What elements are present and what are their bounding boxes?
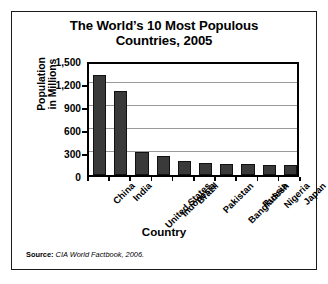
bar-indonesia <box>157 156 170 175</box>
x-axis-title: Country <box>12 225 316 238</box>
x-axis-tick-label-pakistan: Pakistan <box>220 180 255 215</box>
plot-area <box>87 62 299 177</box>
bar-china <box>93 75 106 175</box>
bar-russia <box>241 164 254 175</box>
bar-nigeria <box>263 165 276 175</box>
y-axis-tick-labels: 03006009001,2001,500 <box>26 62 84 177</box>
y-axis-tick-label: 300 <box>64 149 81 160</box>
source-label: Source: <box>26 250 54 259</box>
y-axis-tick-label: 600 <box>64 126 81 137</box>
bar-bangladesh <box>220 164 233 175</box>
x-axis-tick-label-india: India <box>130 180 153 203</box>
bars-layer <box>89 64 297 175</box>
x-axis-tick-label-brazil: Brazil <box>195 180 221 206</box>
y-axis-tick-label: 1,500 <box>56 57 82 68</box>
bar-pakistan <box>199 163 212 175</box>
bar-united-states <box>135 152 148 175</box>
bar-india <box>114 91 127 175</box>
source-note: Source: CIA World Factbook, 2006. <box>26 250 144 259</box>
y-axis-tick-label: 900 <box>64 103 81 114</box>
source-text: CIA World Factbook, 2006. <box>56 250 144 259</box>
figure-card: The World’s 10 Most Populous Countries, … <box>11 11 317 270</box>
bar-brazil <box>178 161 191 175</box>
bar-japan <box>284 165 297 175</box>
y-axis-tick-label: 1,200 <box>56 80 82 91</box>
chart-title-line-1: The World’s 10 Most Populous <box>12 18 316 33</box>
